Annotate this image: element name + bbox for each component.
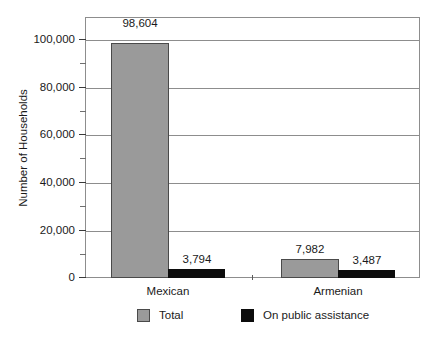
- bar-mexican-assistance: [168, 269, 225, 278]
- bar-mexican-total: [111, 43, 169, 278]
- bar-label-armenian-total: 7,982: [280, 243, 340, 256]
- bar-label-mexican-assistance: 3,794: [167, 253, 227, 266]
- ylabel-60000: 60,000: [0, 128, 75, 140]
- ytick-80000: [79, 87, 86, 88]
- ylabel-100000: 100,000: [0, 33, 75, 45]
- total-swatch-icon: [137, 309, 150, 322]
- xlabel-mexican: Mexican: [128, 284, 208, 298]
- ytick-minor-10000: [80, 254, 86, 255]
- ytick-100000: [79, 39, 86, 40]
- y-axis-title: Number of Households: [14, 18, 32, 278]
- xtick-group-separator: [252, 275, 253, 280]
- legend-label-total: Total: [159, 308, 183, 322]
- assistance-swatch-icon: [241, 309, 254, 322]
- ylabel-0: 0: [0, 271, 75, 283]
- bar-label-armenian-assistance: 3,487: [337, 254, 397, 267]
- ytick-minor-70000: [80, 111, 86, 112]
- ylabel-80000: 80,000: [0, 81, 75, 93]
- ylabel-40000: 40,000: [0, 176, 75, 188]
- ytick-0: [79, 277, 86, 278]
- gridline-100000: [86, 40, 419, 41]
- bar-label-mexican-total: 98,604: [110, 17, 170, 30]
- ytick-minor-50000: [80, 158, 86, 159]
- ylabel-20000: 20,000: [0, 224, 75, 236]
- legend-item-total: Total: [137, 308, 183, 322]
- bar-armenian-total: [281, 259, 339, 278]
- y-axis-title-text: Number of Households: [17, 89, 30, 207]
- ytick-40000: [79, 182, 86, 183]
- legend-item-assistance: On public assistance: [241, 308, 369, 322]
- ytick-minor-30000: [80, 206, 86, 207]
- xlabel-armenian: Armenian: [298, 284, 378, 298]
- ytick-20000: [79, 230, 86, 231]
- legend-label-assistance: On public assistance: [263, 308, 369, 322]
- ytick-60000: [79, 134, 86, 135]
- bar-armenian-assistance: [338, 270, 395, 278]
- ytick-minor-90000: [80, 63, 86, 64]
- bar-chart: Number of Households 100,000 80,000 60,0…: [0, 0, 437, 340]
